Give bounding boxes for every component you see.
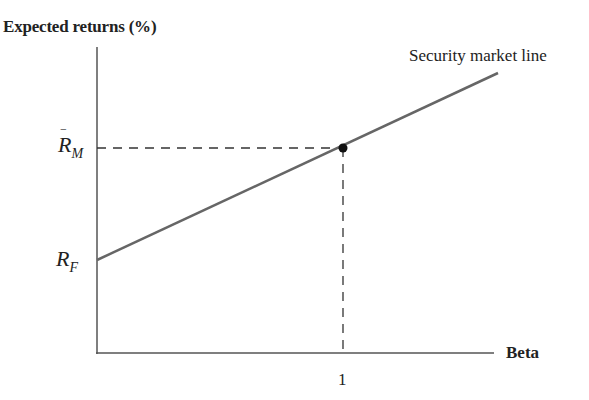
market-portfolio-point	[339, 144, 348, 153]
sml-label: Security market line	[409, 46, 547, 66]
bar-accent: ‾	[61, 129, 66, 145]
y-axis-label: Expected returns (%)	[3, 17, 156, 37]
x-axis-label: Beta	[506, 343, 539, 363]
rf-symbol: R	[56, 246, 69, 271]
x-tick-1: 1	[338, 370, 347, 390]
security-market-line	[97, 73, 498, 260]
y-tick-risk-free: RF	[56, 246, 78, 272]
rm-subscript: M	[71, 146, 83, 161]
y-tick-market-return: ‾RM	[58, 132, 83, 158]
rf-subscript: F	[69, 260, 78, 275]
